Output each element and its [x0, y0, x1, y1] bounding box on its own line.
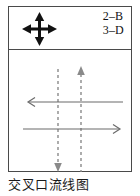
figure-frame: 2–B 3–D [8, 6, 132, 172]
legend-text-block: 2–B 3–D [103, 10, 124, 38]
legend-bar: 2–B 3–D [9, 7, 131, 50]
four-way-arrow-icon [21, 11, 59, 47]
flow-diagram-canvas [9, 50, 131, 172]
intersection-flow-figure: 2–B 3–D [0, 0, 140, 196]
figure-caption: 交叉口流线图 [8, 174, 89, 193]
flow-line-west-bound [28, 98, 123, 107]
flow-line-east-bound [23, 125, 120, 134]
flow-line-south-bound [54, 69, 62, 172]
legend-line-1: 2–B [103, 10, 124, 24]
flow-line-north-bound [77, 66, 85, 172]
legend-line-2: 3–D [103, 24, 124, 38]
